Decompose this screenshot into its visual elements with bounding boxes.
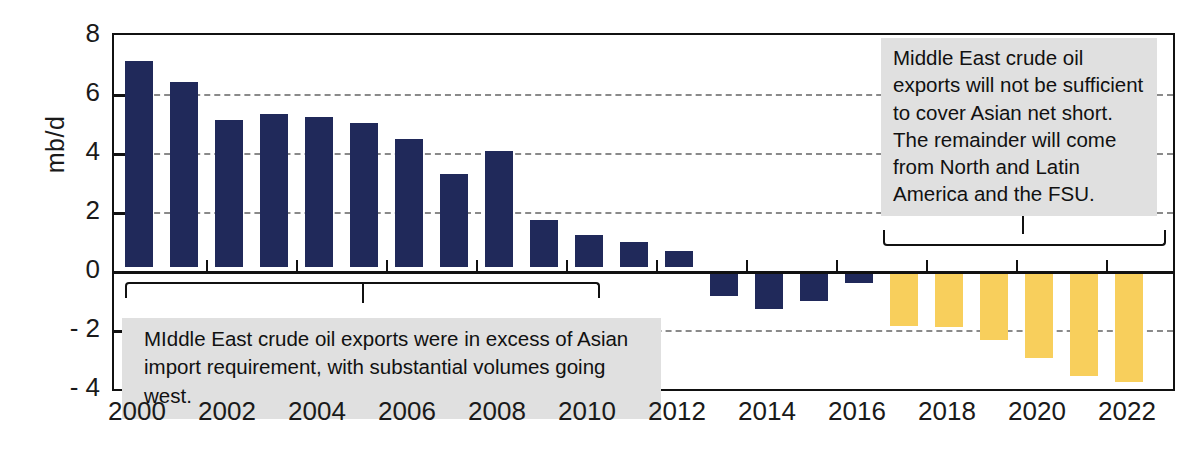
- bracket-forecast-stem: [1022, 215, 1024, 234]
- bar-2014: [755, 271, 783, 309]
- x-label-2010: 2010: [542, 396, 632, 427]
- bar-2018: [935, 271, 963, 327]
- x-tickmark-2002: [206, 260, 208, 271]
- bar-2022: [1115, 271, 1143, 382]
- x-label-2014: 2014: [722, 396, 812, 427]
- y-tick-label-4: 4: [40, 138, 100, 164]
- bar-2008: [485, 151, 513, 267]
- bar-2015: [800, 271, 828, 301]
- annotation-forecast: Middle East crude oil exports will not b…: [881, 38, 1157, 216]
- bar-2005: [350, 123, 378, 267]
- bar-2010: [575, 235, 603, 267]
- x-tickmark-2012: [656, 260, 658, 271]
- bar-2001: [170, 82, 198, 267]
- bar-2009: [530, 220, 558, 267]
- y-axis-tick-labels: 8 6 4 2 0 - 2 - 4: [40, 0, 100, 452]
- x-label-2002: 2002: [182, 396, 272, 427]
- y-tick-label-6: 6: [40, 79, 100, 105]
- bar-2002: [215, 120, 243, 267]
- bracket-forecast: [883, 230, 1166, 246]
- bar-2003: [260, 114, 288, 267]
- zero-baseline: [114, 271, 1173, 274]
- x-label-2004: 2004: [272, 396, 362, 427]
- y-tick-label-neg4: - 4: [40, 374, 100, 400]
- bar-2011: [620, 242, 648, 267]
- x-label-2022: 2022: [1082, 396, 1172, 427]
- bar-2020: [1025, 271, 1053, 358]
- bar-2006: [395, 139, 423, 267]
- x-tickmark-2018: [926, 260, 928, 271]
- y-tick-label-8: 8: [40, 20, 100, 46]
- x-axis-tick-labels: 2000 2002 2004 2006 2008 2010 2012 2014 …: [112, 396, 1175, 440]
- x-label-2020: 2020: [992, 396, 1082, 427]
- bar-2021: [1070, 271, 1098, 376]
- x-tickmark-2016: [836, 260, 838, 271]
- x-label-2018: 2018: [902, 396, 992, 427]
- x-label-2016: 2016: [812, 396, 902, 427]
- x-label-2008: 2008: [452, 396, 542, 427]
- bar-2017: [890, 271, 918, 326]
- bar-2004: [305, 117, 333, 267]
- x-label-2006: 2006: [362, 396, 452, 427]
- x-tickmark-2014: [746, 260, 748, 271]
- bracket-historical-stem: [362, 282, 364, 303]
- x-tickmark-2020: [1016, 260, 1018, 271]
- y-tick-label-neg2: - 2: [40, 315, 100, 341]
- bar-2012: [665, 251, 693, 267]
- x-tickmark-2008: [476, 260, 478, 271]
- x-tickmark-2006: [386, 260, 388, 271]
- y-tick-label-2: 2: [40, 197, 100, 223]
- bar-2019: [980, 271, 1008, 340]
- bar-2000: [125, 61, 153, 267]
- x-tickmark-2022: [1106, 260, 1108, 271]
- x-label-2012: 2012: [632, 396, 722, 427]
- bar-2007: [440, 174, 468, 267]
- x-tickmark-2010: [566, 260, 568, 271]
- bar-2013: [710, 271, 738, 296]
- y-tick-label-0: 0: [40, 256, 100, 282]
- x-label-2000: 2000: [92, 396, 182, 427]
- x-tickmark-2004: [296, 260, 298, 271]
- chart-page: mb/d 8 6 4 2 0 - 2 - 4: [0, 0, 1190, 452]
